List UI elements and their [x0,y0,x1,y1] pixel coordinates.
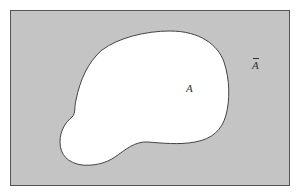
set-a-label: A [186,83,193,94]
venn-diagram: A A [0,0,301,195]
venn-svg [0,0,301,195]
complement-label: A [252,60,259,71]
complement-label-text: A [252,60,259,71]
set-a-label-text: A [186,82,193,94]
